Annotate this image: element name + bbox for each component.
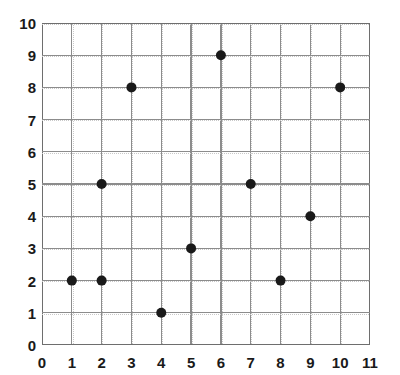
x-axis-tick-label: 1 [68,355,76,370]
y-axis-tick-label: 6 [2,144,36,159]
x-axis-tick-label: 8 [276,355,284,370]
chart-title [0,0,400,3]
data-point [126,82,136,92]
data-points-layer [42,23,370,345]
data-point [97,179,107,189]
x-axis-tick-label: 3 [127,355,135,370]
x-axis-tick-label: 4 [157,355,165,370]
y-axis-tick-label: 3 [2,241,36,256]
x-axis-tick-label: 9 [306,355,314,370]
data-point [156,308,166,318]
y-axis-tick-label: 1 [2,305,36,320]
y-axis-tick-label: 2 [2,273,36,288]
y-axis-tick-label: 10 [2,16,36,31]
x-axis-tick-label: 2 [97,355,105,370]
data-point [305,211,315,221]
y-axis-tick-label: 9 [2,48,36,63]
y-axis-tick-label: 0 [2,338,36,353]
y-axis-tick-label: 4 [2,209,36,224]
data-point [335,82,345,92]
x-axis-tick-label: 6 [217,355,225,370]
data-point [186,243,196,253]
data-point [216,50,226,60]
y-axis-tick-label: 5 [2,177,36,192]
x-axis-tick-label: 0 [38,355,46,370]
plot-area [42,23,370,345]
data-point [246,179,256,189]
data-point [97,276,107,286]
data-point [276,276,286,286]
x-axis-tick-label: 5 [187,355,195,370]
data-point [67,276,77,286]
x-axis-tick-label: 7 [247,355,255,370]
x-axis-tick-label: 10 [332,355,349,370]
scatter-plot-figure: 012345678910 01234567891011 [0,0,400,375]
y-axis-tick-label: 8 [2,80,36,95]
x-axis-tick-label: 11 [362,355,378,370]
y-axis-tick-label: 7 [2,112,36,127]
